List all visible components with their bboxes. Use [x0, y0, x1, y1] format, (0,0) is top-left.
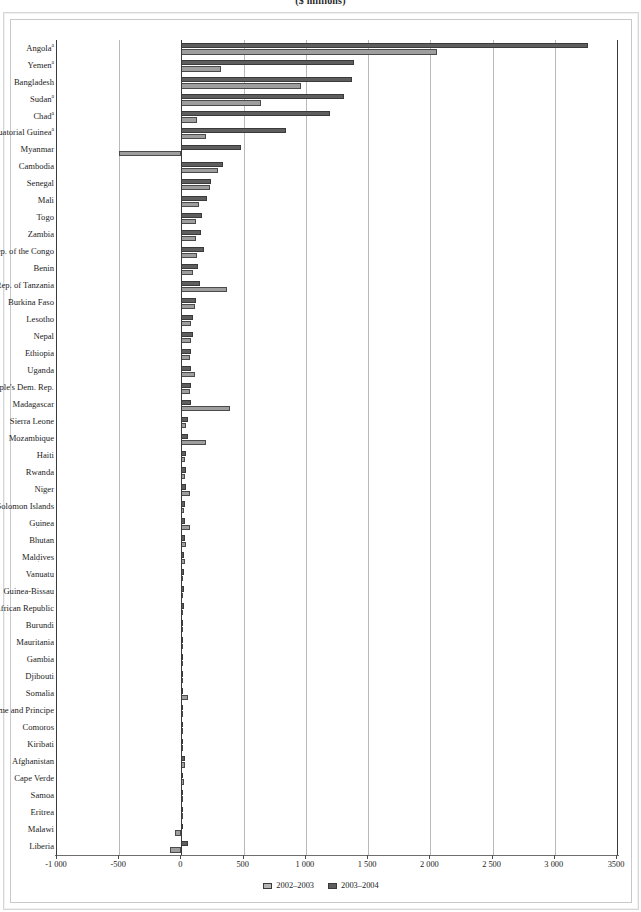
- bar-2002-2003: [181, 134, 205, 139]
- category-label: Togo: [36, 212, 54, 223]
- category-label: Malawi: [28, 824, 54, 835]
- category-label: Cape Verde: [14, 773, 54, 784]
- bar-2002-2003: [181, 440, 205, 445]
- chart-area: AngolaaYemenaBangladeshSudanaChadaEquato…: [14, 23, 628, 899]
- category-label: Uganda: [27, 365, 54, 376]
- category-label: Rwanda: [26, 467, 54, 478]
- bar-row: Bangladesh: [57, 74, 617, 91]
- axis-tick: [243, 855, 244, 859]
- bar-row: Gambia: [57, 651, 617, 668]
- axis-tick-label: 500: [236, 860, 249, 869]
- legend-label: 2003–2004: [341, 881, 379, 890]
- bar-2002-2003: [119, 151, 181, 156]
- bar-2002-2003: [181, 372, 195, 377]
- bar-row: Eritrea: [57, 804, 617, 821]
- category-label: Angolaa: [26, 43, 54, 54]
- bar-row: Mozambique: [57, 431, 617, 448]
- legend-item-2003-2004: 2003–2004: [328, 881, 379, 890]
- bar-2003-2004: [181, 349, 191, 354]
- bar-row: Sao Tome and Principe: [57, 702, 617, 719]
- bar-2003-2004: [181, 264, 197, 269]
- category-label: Djibouti: [25, 671, 54, 682]
- bar-2002-2003: [181, 83, 300, 88]
- legend-label: 2002–2003: [276, 881, 314, 890]
- paper-speck: [36, 527, 37, 528]
- bar-row: Burkina Faso: [57, 295, 617, 312]
- bar-row: Samoa: [57, 787, 617, 804]
- bar-row: Angolaa: [57, 40, 617, 57]
- category-label: Sierra Leone: [10, 416, 54, 427]
- category-label: Nepal: [33, 331, 54, 342]
- bar-row: Kiribati: [57, 736, 617, 753]
- category-label: Benin: [33, 263, 54, 274]
- bar-row: Haiti: [57, 448, 617, 465]
- category-label: Gambia: [27, 654, 54, 665]
- category-label: Guinea-Bissau: [3, 586, 54, 597]
- axis-tick-label: 3 000: [544, 860, 563, 869]
- bar-row: Djibouti: [57, 668, 617, 685]
- bar-2003-2004: [181, 247, 204, 252]
- bar-2002-2003: [181, 202, 198, 207]
- bar-2002-2003: [181, 389, 190, 394]
- bar-row: Afghanistan: [57, 753, 617, 770]
- category-label: Mauritania: [16, 637, 54, 648]
- category-label: Cambodia: [19, 161, 54, 172]
- bar-row: Togo: [57, 210, 617, 227]
- bar-row: Mauritania: [57, 634, 617, 651]
- category-label: Zambia: [28, 229, 54, 240]
- axis-tick: [118, 855, 119, 859]
- category-label: Bhutan: [29, 535, 54, 546]
- footnote-marker: a: [52, 93, 54, 99]
- legend-swatch-icon: [328, 883, 337, 889]
- footnote-marker: a: [52, 110, 54, 116]
- axis-tick-label: 1 000: [295, 860, 314, 869]
- axis-tick-label: 2 000: [420, 860, 439, 869]
- bar-2002-2003: [181, 304, 194, 309]
- bar-row: Ethiopia: [57, 346, 617, 363]
- bar-2002-2003: [181, 338, 190, 343]
- category-label: Guinea: [29, 518, 54, 529]
- bar-2003-2004: [181, 230, 200, 235]
- bar-row: Lesotho: [57, 312, 617, 329]
- category-label: Niger: [34, 484, 54, 495]
- bar-2003-2004: [181, 400, 190, 405]
- category-label: Myanmar: [21, 144, 54, 155]
- bar-2003-2004: [181, 43, 588, 48]
- axis-tick: [56, 855, 57, 859]
- bar-2003-2004: [181, 366, 191, 371]
- bar-row: Dem. Rep. of the Congo: [57, 244, 617, 261]
- bar-row: Chada: [57, 108, 617, 125]
- bar-row: Uganda: [57, 363, 617, 380]
- bar-row: Bhutan: [57, 532, 617, 549]
- category-label: Senegal: [27, 178, 54, 189]
- bar-2002-2003: [181, 253, 197, 258]
- bar-row: Comoros: [57, 719, 617, 736]
- category-label: Comoros: [22, 722, 54, 733]
- figure-title: ($ millions): [0, 0, 641, 6]
- bar-2002-2003: [181, 117, 197, 122]
- category-label: Lao People's Dem. Rep.: [0, 382, 54, 393]
- category-label: Afghanistan: [12, 756, 54, 767]
- bar-row: Liberia: [57, 838, 617, 855]
- paper-speck: [38, 561, 39, 562]
- bar-2003-2004: [181, 841, 188, 846]
- bar-row: Maldives: [57, 549, 617, 566]
- bar-row: Sudana: [57, 91, 617, 108]
- bar-2002-2003: [181, 100, 261, 105]
- axis-tick: [305, 855, 306, 859]
- bar-row: Zambia: [57, 227, 617, 244]
- category-label: Burundi: [26, 620, 54, 631]
- bar-2002-2003: [181, 406, 230, 411]
- footnote-marker: a: [52, 42, 54, 48]
- chart-legend: 2002–2003 2003–2004: [14, 881, 628, 890]
- bar-row: Niger: [57, 481, 617, 498]
- bar-2003-2004: [181, 179, 210, 184]
- axis-tick-label: 3500: [608, 860, 625, 869]
- bar-row: Central African Republic: [57, 600, 617, 617]
- bar-2003-2004: [181, 315, 193, 320]
- bar-row: Vanuatu: [57, 566, 617, 583]
- bar-2003-2004: [181, 128, 286, 133]
- bar-2003-2004: [181, 77, 351, 82]
- axis-tick-label: -1 000: [45, 860, 67, 869]
- bar-row: Benin: [57, 261, 617, 278]
